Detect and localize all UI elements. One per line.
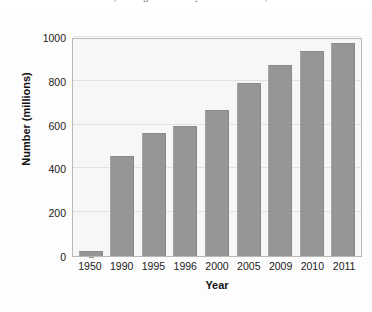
y-axis-tick-label: 400 [48,163,66,175]
bar-slot [264,39,296,256]
bar-slot [75,39,107,256]
clipped-body-text-strip: and 1990, although statistically from a … [0,0,372,9]
bar-slot [107,39,139,256]
x-axis-title: Year [72,279,362,291]
x-axis-tick-label: 2011 [328,260,360,272]
bar-slot [233,39,265,256]
bar-2005[interactable] [237,83,261,256]
bar-2009[interactable] [268,65,292,256]
bar-2010[interactable] [300,51,324,256]
y-axis-tick-label: 800 [48,76,66,88]
x-axis-tick-label: 2010 [296,260,328,272]
x-axis-tick-label: 2009 [265,260,297,272]
bar-1990[interactable] [110,156,134,256]
bar-1996[interactable] [173,126,197,256]
figure-plate: Number (millions) 02004006008001000 1950… [0,9,372,312]
y-axis-tick-labels: 02004006008001000 [22,38,66,257]
bar-slot [170,39,202,256]
x-axis-tick-label: 1996 [169,260,201,272]
x-axis-tick-label: 1995 [138,260,170,272]
bar-1950[interactable] [79,251,103,256]
x-axis-tick-label: 1990 [106,260,138,272]
y-axis-tick-label: 0 [60,251,66,263]
x-axis-tick-label: 2000 [201,260,233,272]
x-axis-tick-label: 2005 [233,260,265,272]
clipped-body-text-line: and 1990, although statistically from a … [78,0,368,3]
y-axis-tick-label: 1000 [43,32,66,44]
y-axis-tick-label: 200 [48,207,66,219]
y-axis-tick-label: 600 [48,120,66,132]
bar-slot [296,39,328,256]
bar-1995[interactable] [142,133,166,256]
bar-2000[interactable] [205,110,229,256]
bar-slot [201,39,233,256]
x-axis-tick-label: 1950 [74,260,106,272]
gridline [73,36,361,37]
bar-slot [328,39,360,256]
y-axis-tick-mark [89,257,94,258]
bar-series [73,39,361,256]
x-axis-tick-labels: 195019901995199620002005200920102011 [72,260,362,272]
plot-area [72,38,362,257]
bar-slot [138,39,170,256]
bar-2011[interactable] [331,43,355,256]
figure-page: and 1990, although statistically from a … [0,0,372,312]
